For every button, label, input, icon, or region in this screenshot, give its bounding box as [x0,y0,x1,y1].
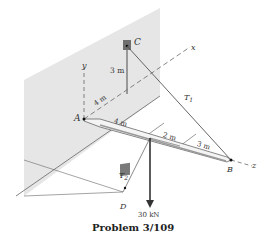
z-axis [231,160,252,166]
label-y-axis: y [81,61,87,70]
label-b: B [226,165,233,174]
caption: Problem 3/109 [92,222,174,233]
dim-3m: 3 m [110,66,124,75]
load-arrow-head [146,200,154,208]
label-c: C [134,37,141,47]
load-label: 30 kN [138,211,160,219]
label-z-axis: z [251,161,257,170]
point-d-dot [124,187,126,189]
label-a: A [73,113,81,123]
label-d: D [119,202,127,211]
problem-diagram: C A B D x y z 3 m 4 m 4 m 2 m 3 m T1 T2 … [0,0,273,234]
point-a-dot [83,118,86,121]
point-b-dot [230,159,233,162]
floor-line [24,192,123,196]
label-t1: T1 [184,93,193,103]
label-x-axis: x [191,43,196,52]
